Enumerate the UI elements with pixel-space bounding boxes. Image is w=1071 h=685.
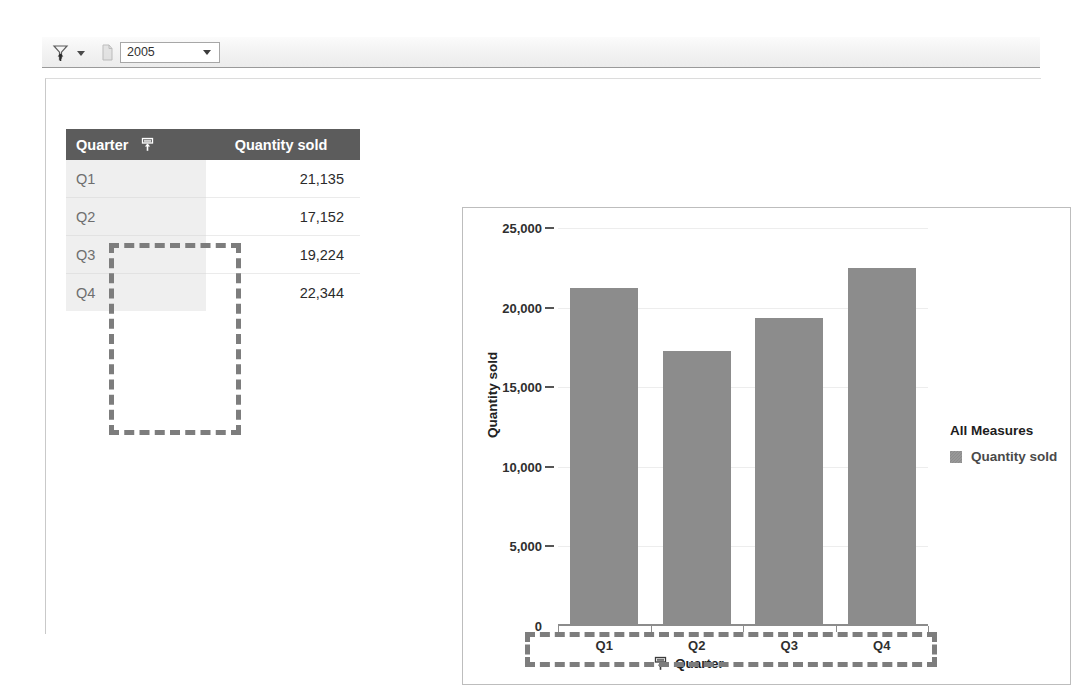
x-axis-tick-mark: [836, 626, 837, 632]
bar-chart-panel: Quantity sold 05,00010,00015,00020,00025…: [462, 207, 1071, 685]
y-axis-tick-label: 10,000: [502, 459, 542, 474]
chart-legend: All Measures Quantity sold: [950, 423, 1057, 464]
x-axis-tick-mark: [651, 626, 652, 632]
drill-up-icon[interactable]: [140, 137, 155, 152]
x-axis-category-label[interactable]: Q3: [781, 638, 798, 653]
legend-title: All Measures: [950, 423, 1057, 438]
bar-q3[interactable]: [755, 318, 823, 624]
column-header-quantity-sold-label: Quantity sold: [235, 137, 328, 153]
x-axis-category-label[interactable]: Q4: [873, 638, 890, 653]
legend-item-label: Quantity sold: [971, 449, 1057, 464]
column-header-quantity-sold[interactable]: Quantity sold: [206, 129, 360, 160]
x-axis-category-label[interactable]: Q2: [688, 638, 705, 653]
y-axis-tick-mark: [545, 545, 554, 547]
x-axis-tick-mark: [558, 626, 559, 632]
report-content-panel: Quarter Quantity sold: [45, 78, 1041, 634]
drill-filter-button[interactable]: [49, 40, 87, 64]
column-header-quarter[interactable]: Quarter: [66, 129, 206, 160]
column-header-quarter-label: Quarter: [76, 137, 128, 153]
table-header-row: Quarter Quantity sold: [66, 129, 360, 160]
page-icon: [101, 44, 114, 61]
cell-quantity-sold[interactable]: 21,135: [206, 160, 360, 198]
legend-item[interactable]: Quantity sold: [950, 449, 1057, 464]
table-row[interactable]: Q4 22,344: [66, 274, 360, 312]
bar-q2[interactable]: [663, 351, 731, 624]
crosstab-table: Quarter Quantity sold: [66, 129, 360, 311]
x-axis-tick-mark: [928, 626, 929, 632]
bar-q4[interactable]: [848, 268, 916, 624]
x-axis-title[interactable]: Quarter: [653, 656, 724, 671]
x-axis-tick-mark: [743, 626, 744, 632]
y-axis-tick-label: 25,000: [502, 221, 542, 236]
y-axis-tick-mark: [545, 307, 554, 309]
year-select[interactable]: 2005: [120, 42, 220, 63]
drill-up-icon[interactable]: [653, 656, 668, 671]
legend-swatch: [950, 451, 962, 463]
y-axis-tick-mark: [545, 227, 554, 229]
table-row[interactable]: Q3 19,224: [66, 236, 360, 274]
cell-quarter[interactable]: Q1: [66, 160, 206, 198]
y-axis-title: Quantity sold: [485, 352, 500, 438]
y-axis-tick-label: 20,000: [502, 300, 542, 315]
year-select-value: 2005: [121, 45, 203, 59]
y-axis-tick-label: 15,000: [502, 380, 542, 395]
cell-quarter[interactable]: Q2: [66, 198, 206, 236]
chevron-down-icon[interactable]: [77, 51, 85, 56]
cell-quantity-sold[interactable]: 19,224: [206, 236, 360, 274]
y-axis-tick-mark: [545, 386, 554, 388]
gridline: [558, 228, 928, 229]
toolbar: 2005: [42, 37, 1040, 68]
filter-drill-icon: [51, 43, 70, 62]
table-row[interactable]: Q2 17,152: [66, 198, 360, 236]
table-row[interactable]: Q1 21,135: [66, 160, 360, 198]
cell-quarter[interactable]: Q3: [66, 236, 206, 274]
y-axis-tick-label: 0: [535, 619, 542, 634]
y-axis-tick-mark: [545, 466, 554, 468]
bar-q1[interactable]: [570, 288, 638, 624]
chevron-down-icon[interactable]: [203, 50, 211, 55]
x-axis-title-label: Quarter: [675, 656, 724, 671]
cell-quantity-sold[interactable]: 17,152: [206, 198, 360, 236]
y-axis-tick-label: 5,000: [509, 539, 542, 554]
plot-area: 05,00010,00015,00020,00025,000Q1Q2Q3Q4: [558, 226, 928, 626]
x-axis-category-label[interactable]: Q1: [596, 638, 613, 653]
cell-quarter[interactable]: Q4: [66, 274, 206, 312]
cell-quantity-sold[interactable]: 22,344: [206, 274, 360, 312]
